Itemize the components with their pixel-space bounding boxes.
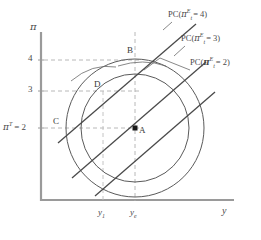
curve-label-pc2-sub: t: [213, 63, 215, 69]
curve-label-pc2-eq: = 2): [216, 57, 230, 67]
curve-label-pc4: PC(πEt= 4): [168, 8, 207, 21]
x-tick-ye: ye: [130, 208, 137, 219]
curve-label-pc3-prefix: PC(: [181, 33, 194, 43]
y-tick-4: 4: [28, 54, 33, 63]
curve-label-pc2: PC(πEt= 2): [190, 56, 230, 69]
leader-line-pc3: [174, 46, 185, 56]
y-tick-3: 3: [28, 85, 33, 94]
x-tick-ye-subscript: e: [134, 213, 137, 219]
phillips-curve-pi3: [72, 62, 206, 178]
leader-line-pc2: [160, 58, 190, 70]
curve-label-pc2-sup: E: [209, 56, 213, 62]
curve-label-pc3-sub: t: [204, 39, 206, 45]
figure-canvas: [0, 0, 261, 240]
curve-label-pc4-sub: t: [191, 15, 193, 21]
pi-target-value: = 2: [14, 122, 26, 132]
arc-annotation-right: [118, 62, 166, 66]
curve-label-pc4-eq: = 4): [193, 9, 207, 19]
curve-label-pc3-sup: E: [200, 32, 204, 38]
curve-label-pc3: PC(πEt= 3): [181, 32, 220, 45]
point-label-a: A: [139, 126, 146, 135]
y-tick-2: πT= 2: [3, 121, 26, 132]
point-a-marker: [133, 126, 138, 131]
pi-target-superscript: T: [9, 121, 12, 127]
phillips-curve-pi2: [95, 92, 215, 196]
x-axis-label: y: [222, 206, 226, 216]
point-label-c: C: [53, 117, 59, 126]
point-label-b: B: [127, 46, 133, 55]
curve-label-pc4-sup: E: [187, 8, 191, 14]
curve-label-pc2-prefix: PC(: [190, 57, 203, 67]
x-tick-y1: y1: [98, 208, 105, 219]
curve-label-pc4-prefix: PC(: [168, 9, 181, 19]
phillips-curve-pi4: [58, 24, 196, 143]
leader-line-pc4: [163, 22, 172, 30]
phillips-curve-figure: π y 4 3 πT= 2 y1 ye A B C D PC(πEt= 4) P…: [0, 0, 261, 240]
point-label-d: D: [94, 80, 101, 89]
x-tick-y1-subscript: 1: [102, 213, 105, 219]
y-axis-label: π: [30, 22, 37, 32]
curve-label-pc3-eq: = 3): [206, 33, 220, 43]
